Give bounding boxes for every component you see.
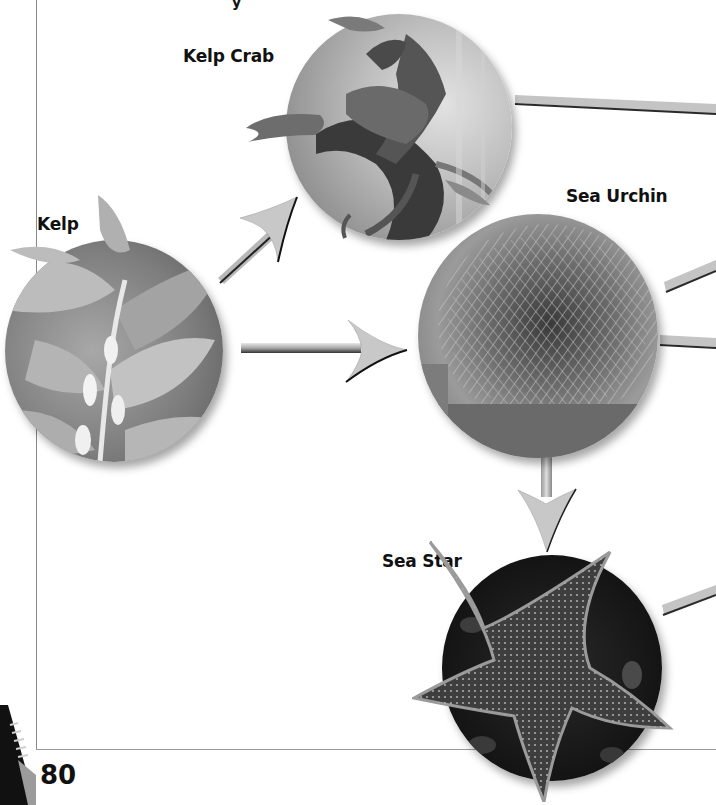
sea-urchin-illustration [418, 214, 658, 458]
label-sea-urchin: Sea Urchin [566, 186, 667, 206]
page-number: 80 [40, 760, 76, 790]
sea-urchin-photo [418, 214, 658, 458]
connector-sea-urchin-offpage-lower [660, 335, 716, 348]
connector-kelp-crab-offpage [515, 95, 716, 114]
connector-sea-urchin-offpage-upper [664, 260, 716, 292]
kelp-leaves-overflow [0, 190, 240, 280]
sea-star-illustration [412, 532, 687, 802]
kelp-crab-claws [240, 10, 510, 240]
arrow-kelp-to-sea-urchin [241, 320, 407, 382]
page-corner-tab-graphic [0, 705, 40, 805]
